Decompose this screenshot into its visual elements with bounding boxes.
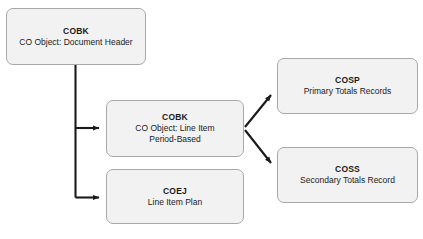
node-subtitle: Secondary Totals Record: [300, 175, 395, 186]
node-subtitle: CO Object: Document Header: [19, 37, 132, 48]
node-cobk-document-header[interactable]: COBK CO Object: Document Header: [6, 8, 146, 65]
connector-line-item-to-cosp: [245, 95, 271, 127]
diagram-canvas: COBK CO Object: Document Header COBK CO …: [0, 0, 423, 239]
node-title: COSP: [335, 75, 360, 86]
node-subtitle: Primary Totals Records: [304, 86, 392, 97]
node-coej-line-item-plan[interactable]: COEJ Line Item Plan: [106, 169, 244, 224]
node-coss-secondary-totals[interactable]: COSS Secondary Totals Record: [277, 147, 418, 203]
node-title: COEJ: [163, 186, 187, 197]
connector-line-item-to-coss: [245, 130, 271, 163]
node-subtitle: Line Item Plan: [148, 197, 202, 208]
node-cobk-line-item[interactable]: COBK CO Object: Line Item Period-Based: [106, 100, 244, 157]
node-title: COBK: [63, 26, 89, 37]
node-subtitle: CO Object: Line Item Period-Based: [135, 123, 214, 145]
node-title: COBK: [162, 112, 188, 123]
node-cosp-primary-totals[interactable]: COSP Primary Totals Records: [277, 58, 418, 114]
node-title: COSS: [335, 164, 360, 175]
